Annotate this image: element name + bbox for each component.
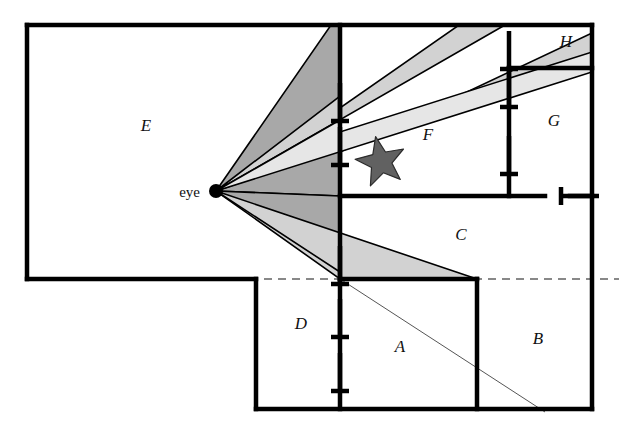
cone-lower-door-b — [216, 191, 477, 279]
visibility-cones-group — [216, 25, 592, 279]
thin-ray-group — [337, 277, 545, 412]
room-label-E: E — [140, 116, 152, 135]
doorway-markers-group — [331, 31, 599, 391]
room-label-A: A — [394, 337, 406, 356]
room-label-B: B — [533, 329, 544, 348]
door-spine-d2 — [331, 353, 349, 391]
room-label-D: D — [294, 314, 308, 333]
room-label-H: H — [559, 32, 574, 51]
diagram-canvas: eye ABCDEFGH — [0, 0, 619, 427]
door-spine-d1 — [331, 299, 349, 337]
eye-viewpoint-group: eye — [179, 184, 223, 200]
eye-point-marker — [209, 184, 223, 198]
floor-plan-svg: eye ABCDEFGH — [0, 0, 619, 427]
door-g-left-top — [500, 31, 518, 69]
eye-label: eye — [179, 184, 200, 200]
room-label-F: F — [422, 125, 434, 144]
door-g-left-low — [500, 136, 518, 174]
far-sight-ray — [337, 277, 545, 412]
room-label-G: G — [548, 111, 560, 130]
room-label-C: C — [455, 225, 467, 244]
